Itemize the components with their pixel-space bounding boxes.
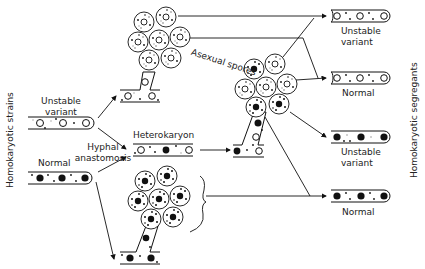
output-hypha-4 bbox=[331, 190, 390, 202]
bottom-spore-cluster bbox=[128, 166, 190, 229]
output-hypha-3 bbox=[331, 131, 390, 143]
heterokaryon-label: Heterokaryon bbox=[133, 130, 194, 141]
mixed-conidiophore bbox=[233, 112, 266, 157]
right-axis-label: Homokaryotic segregants bbox=[409, 62, 419, 178]
heterokaryon-hypha bbox=[133, 144, 193, 156]
output-1-label: Unstable variant bbox=[341, 26, 381, 48]
output-hypha-1 bbox=[331, 10, 390, 22]
output-2-label: Normal bbox=[342, 88, 375, 99]
brace bbox=[190, 176, 206, 232]
unstable-variant-hypha bbox=[28, 117, 94, 129]
hyphal-anastomosis-label: Hyphal anastomosis bbox=[74, 142, 132, 164]
input-normal-label: Normal bbox=[38, 158, 71, 169]
output-3-label: Unstable variant bbox=[341, 147, 381, 169]
output-hypha-2 bbox=[331, 72, 390, 84]
hyphal-anastomosis-diagram: Homokaryotic strains Homokaryotic segreg… bbox=[0, 0, 425, 269]
bottom-conidiophore bbox=[120, 226, 160, 264]
input-unstable-label: Unstable variant bbox=[36, 96, 86, 118]
left-axis-label: Homokaryotic strains bbox=[5, 92, 15, 188]
output-4-label: Normal bbox=[342, 207, 375, 218]
top-conidiophore bbox=[120, 72, 160, 102]
normal-hypha bbox=[28, 172, 92, 184]
